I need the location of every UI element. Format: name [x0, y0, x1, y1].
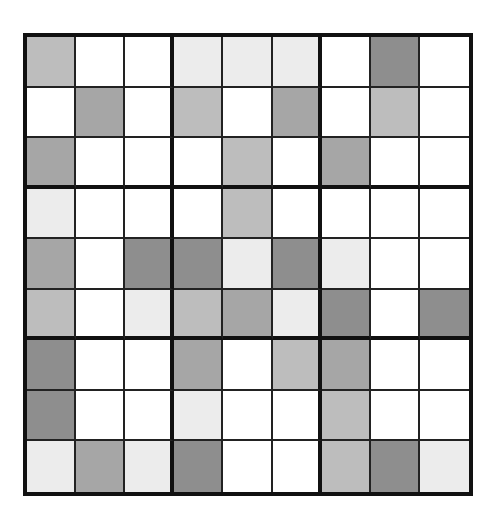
grid-cell[interactable] [76, 441, 125, 492]
grid-cell[interactable] [76, 88, 125, 139]
grid-cell[interactable] [76, 189, 125, 240]
grid-cell[interactable] [273, 290, 322, 341]
grid-cell[interactable] [223, 37, 272, 88]
grid-cell[interactable] [420, 340, 469, 391]
grid-cell[interactable] [27, 391, 76, 442]
grid-cell[interactable] [223, 391, 272, 442]
grid-cell[interactable] [322, 138, 371, 189]
grid-cell[interactable] [420, 88, 469, 139]
grid-cell[interactable] [174, 340, 223, 391]
grid-cell[interactable] [273, 340, 322, 391]
grid-cell[interactable] [273, 189, 322, 240]
grid-cell[interactable] [174, 189, 223, 240]
grid-cell[interactable] [273, 88, 322, 139]
grid-cell[interactable] [76, 138, 125, 189]
grid-cell[interactable] [322, 88, 371, 139]
grid-cell[interactable] [420, 138, 469, 189]
grid-cell[interactable] [76, 290, 125, 341]
grid-cell[interactable] [125, 138, 174, 189]
grid-cell[interactable] [223, 88, 272, 139]
grid-cell[interactable] [76, 37, 125, 88]
grid-cell[interactable] [322, 290, 371, 341]
grid-cell[interactable] [371, 189, 420, 240]
grid-cell[interactable] [371, 88, 420, 139]
grid-cell[interactable] [223, 340, 272, 391]
grid-cell[interactable] [223, 239, 272, 290]
grid-cell[interactable] [223, 441, 272, 492]
grid-cell[interactable] [125, 189, 174, 240]
grid-cell[interactable] [27, 88, 76, 139]
grid-cell[interactable] [174, 138, 223, 189]
grid-cell[interactable] [371, 138, 420, 189]
grid-cell[interactable] [125, 88, 174, 139]
puzzle-grid [23, 33, 473, 496]
grid-cell[interactable] [420, 441, 469, 492]
grid-cell[interactable] [322, 441, 371, 492]
grid-cell[interactable] [371, 239, 420, 290]
grid-cell[interactable] [273, 138, 322, 189]
grid-cell[interactable] [125, 239, 174, 290]
grid-cell[interactable] [273, 239, 322, 290]
grid-cell[interactable] [322, 189, 371, 240]
grid-cell[interactable] [27, 340, 76, 391]
grid-cell[interactable] [420, 290, 469, 341]
grid-cell[interactable] [125, 441, 174, 492]
grid-cell[interactable] [322, 340, 371, 391]
grid-cell[interactable] [420, 37, 469, 88]
grid-cell[interactable] [174, 441, 223, 492]
grid-cell[interactable] [420, 189, 469, 240]
grid-cell[interactable] [371, 37, 420, 88]
grid-cell[interactable] [27, 138, 76, 189]
grid-cell[interactable] [174, 37, 223, 88]
grid-cell[interactable] [223, 138, 272, 189]
grid-cell[interactable] [174, 88, 223, 139]
grid-cell[interactable] [322, 239, 371, 290]
grid-cell[interactable] [27, 290, 76, 341]
grid-cell[interactable] [125, 340, 174, 391]
grid-cell[interactable] [174, 239, 223, 290]
grid-cell[interactable] [76, 391, 125, 442]
grid-cell[interactable] [223, 290, 272, 341]
grid-cell[interactable] [371, 290, 420, 341]
grid-cell[interactable] [223, 189, 272, 240]
grid-cell[interactable] [371, 391, 420, 442]
grid-cell[interactable] [273, 441, 322, 492]
grid-cell[interactable] [125, 391, 174, 442]
grid-cell[interactable] [174, 391, 223, 442]
grid-cell[interactable] [371, 441, 420, 492]
grid-cell[interactable] [273, 37, 322, 88]
grid-cell[interactable] [420, 391, 469, 442]
grid-cell[interactable] [322, 391, 371, 442]
grid-cell[interactable] [125, 290, 174, 341]
grid-cell[interactable] [27, 441, 76, 492]
grid-cell[interactable] [371, 340, 420, 391]
grid-cell[interactable] [27, 239, 76, 290]
grid-cell[interactable] [420, 239, 469, 290]
grid-cell[interactable] [125, 37, 174, 88]
grid-cell[interactable] [76, 239, 125, 290]
grid-cell[interactable] [273, 391, 322, 442]
grid-cell[interactable] [174, 290, 223, 341]
grid-cell[interactable] [76, 340, 125, 391]
grid-cell[interactable] [27, 37, 76, 88]
grid-cell[interactable] [322, 37, 371, 88]
grid-cell[interactable] [27, 189, 76, 240]
